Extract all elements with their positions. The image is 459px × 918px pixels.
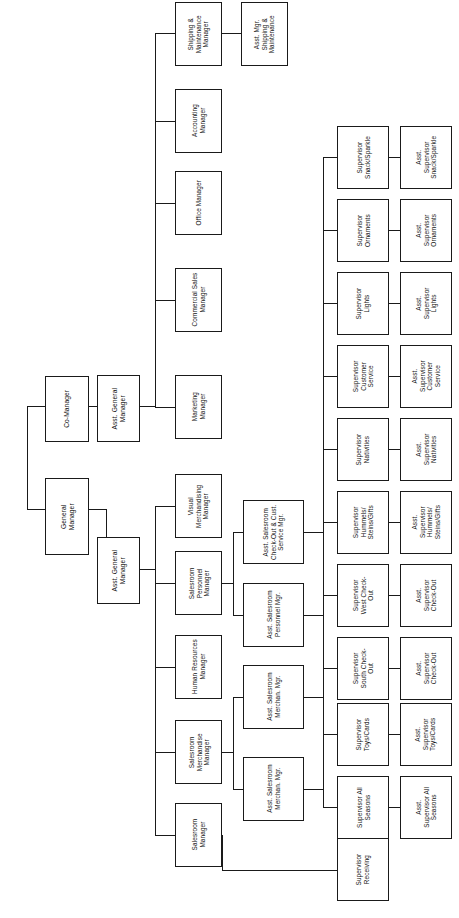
node-shipping-maintenance-manager-label: Shipping &MaintenanceManager <box>187 15 210 53</box>
node-asst-supervisor-snack-sparkle-label: Asst.SupervisorSnack/Sparkle <box>415 136 438 179</box>
node-salesroom-manager[interactable]: SalesroomManager <box>175 803 222 867</box>
branch-asst-checkout-cust <box>233 532 243 533</box>
node-supervisor-all-seasons-label: Supervisor AllSeasons <box>355 787 370 828</box>
node-co-manager-label: Co-Manager <box>63 390 71 428</box>
node-supervisor-toys-cards-label: SupervisorToys/Cards <box>355 718 370 751</box>
node-office-manager-label: Office Manager <box>195 180 203 225</box>
branch-commercial-sales <box>155 300 175 301</box>
node-asst-general-manager-upper[interactable]: Asst. GeneralManager <box>97 375 140 442</box>
node-asst-supervisor-hummels-gifts-label: Asst.SupervisorHummels/Steins/Gifts <box>411 505 441 539</box>
link-sup-asst-snack-sparkle <box>389 157 400 158</box>
node-asst-supervisor-lights-label: Asst.SupervisorLights <box>415 288 438 320</box>
node-asst-supervisor-all-seasons-label: Asst.Supervisor AllSeasons <box>415 787 438 828</box>
trunk-agm-upper <box>155 33 156 408</box>
node-salesroom-personnel-manager-label: SalesroomPersonnelManager <box>187 567 210 599</box>
node-asst-general-manager-lower-label: Asst. GeneralManager <box>111 550 127 592</box>
connector-asst-checkout-out <box>304 532 324 533</box>
node-accounting-manager[interactable]: AccountingManager <box>175 89 222 153</box>
branch-sup-ornaments <box>323 230 337 231</box>
org-chart-canvas: GeneralManager Co-Manager Asst. GeneralM… <box>0 0 459 918</box>
node-asst-supervisor-snack-sparkle[interactable]: Asst.SupervisorSnack/Sparkle <box>400 126 452 189</box>
node-supervisor-receiving-label: SupervisorReceiving <box>355 854 370 886</box>
node-human-resources-manager-label: Human ResourcesManager <box>191 640 206 695</box>
connector-salesroom-mgr-drop <box>222 835 223 871</box>
node-asst-supervisor-toys-cards[interactable]: Asst.SupervisorToys/Cards <box>400 703 452 766</box>
link-sup-asst-toys-cards <box>389 734 400 735</box>
node-salesroom-merchandise-manager-label: SalesroomMerchandiseManager <box>187 733 210 771</box>
connector-comanager-left-stub <box>27 406 45 407</box>
node-asst-supervisor-nativities-label: Asst.SupervisorNativities <box>415 434 438 466</box>
node-salesroom-manager-label: SalesroomManager <box>191 819 206 851</box>
node-asst-supervisor-west-check-out[interactable]: Asst.SupervisorCheck-Out <box>400 564 452 627</box>
node-supervisor-south-check-out-label: SupervisorSouth Check-Out <box>352 648 375 688</box>
node-supervisor-snack-sparkle[interactable]: SupervisorSnack/Sparkle <box>337 126 389 189</box>
node-salesroom-personnel-manager[interactable]: SalesroomPersonnelManager <box>175 551 222 615</box>
node-asst-salesroom-merchan-mgr-1[interactable]: Asst. SalesroomMerchan. Mgr. <box>243 665 304 729</box>
node-asst-supervisor-nativities[interactable]: Asst.SupervisorNativities <box>400 418 452 481</box>
node-supervisor-customer-service-label: SupervisorCustomerService <box>352 361 375 393</box>
node-supervisor-hummels-gifts[interactable]: SupervisorHummels/Steins/Gifts <box>337 491 389 554</box>
link-sup-asst-nativities <box>389 449 400 450</box>
branch-visual-merch <box>155 506 175 507</box>
link-sup-asst-lights <box>389 303 400 304</box>
node-asst-supervisor-lights[interactable]: Asst.SupervisorLights <box>400 272 452 335</box>
node-accounting-manager-label: AccountingManager <box>191 105 206 138</box>
connector-salesroom-mgr-receiving <box>222 870 337 871</box>
node-human-resources-manager[interactable]: Human ResourcesManager <box>175 635 222 699</box>
node-supervisor-hummels-gifts-label: SupervisorHummels/Steins/Gifts <box>352 505 375 539</box>
node-supervisor-toys-cards[interactable]: SupervisorToys/Cards <box>337 703 389 766</box>
node-general-manager[interactable]: GeneralManager <box>45 478 89 555</box>
node-supervisor-lights[interactable]: SupervisorLights <box>337 272 389 335</box>
node-supervisor-nativities-label: SupervisorNativities <box>355 434 370 466</box>
node-supervisor-nativities[interactable]: SupervisorNativities <box>337 418 389 481</box>
node-asst-supervisor-all-seasons[interactable]: Asst.Supervisor AllSeasons <box>400 776 452 839</box>
node-asst-salesroom-checkout-cust-service-mgr[interactable]: Asst. SalesroomCheck-Out & Cust.Service … <box>243 500 304 564</box>
node-office-manager[interactable]: Office Manager <box>175 171 222 235</box>
branch-sup-customer-service <box>323 376 337 377</box>
node-supervisor-customer-service[interactable]: SupervisorCustomerService <box>337 345 389 408</box>
node-commercial-sales-manager[interactable]: Commercial SalesManager <box>175 268 222 332</box>
connector-asst-merchan1-out <box>304 697 324 698</box>
node-asst-supervisor-customer-service-label: Asst.SupervisorCustomerService <box>411 361 441 393</box>
node-supervisor-south-check-out[interactable]: SupervisorSouth Check-Out <box>337 637 389 700</box>
trunk-agm-lower <box>155 506 156 836</box>
node-asst-mgr-shipping-maintenance-label: Asst. Mgr.Shipping &Maintenance <box>253 15 276 53</box>
node-supervisor-receiving[interactable]: SupervisorReceiving <box>337 838 389 901</box>
connector-asst-merchan2-out <box>304 789 324 790</box>
branch-asst-merchan-2 <box>233 789 243 790</box>
node-asst-supervisor-customer-service[interactable]: Asst.SupervisorCustomerService <box>400 345 452 408</box>
link-sup-asst-ornaments <box>389 230 400 231</box>
node-supervisor-ornaments[interactable]: SupervisorOrnaments <box>337 199 389 262</box>
node-asst-supervisor-ornaments[interactable]: Asst.SupervisorOrnaments <box>400 199 452 262</box>
node-asst-salesroom-merchan-mgr-2-label: Asst. SalesroomMerchan. Mgr. <box>266 765 281 813</box>
node-asst-salesroom-merchan-mgr-1-label: Asst. SalesroomMerchan. Mgr. <box>266 673 281 721</box>
bracket-personnel <box>233 532 234 616</box>
node-asst-general-manager-lower[interactable]: Asst. GeneralManager <box>97 537 140 604</box>
node-asst-salesroom-merchan-mgr-2[interactable]: Asst. SalesroomMerchan. Mgr. <box>243 757 304 821</box>
node-asst-salesroom-personnel-mgr[interactable]: Asst. SalesroomPersonnel Mgr. <box>243 583 304 647</box>
node-marketing-manager[interactable]: MarketingManager <box>175 375 222 439</box>
node-asst-supervisor-west-check-out-label: Asst.SupervisorCheck-Out <box>415 580 438 612</box>
branch-shipping-maintenance <box>155 33 175 34</box>
link-sup-asst-all-seasons <box>389 807 400 808</box>
connector-agm-lower-out <box>140 569 156 570</box>
node-shipping-maintenance-manager[interactable]: Shipping &MaintenanceManager <box>175 2 222 66</box>
node-salesroom-merchandise-manager[interactable]: SalesroomMerchandiseManager <box>175 720 222 784</box>
branch-office-manager <box>155 203 175 204</box>
node-visual-merchandising-manager[interactable]: VisualMerchandisingManager <box>175 474 222 538</box>
node-asst-mgr-shipping-maintenance[interactable]: Asst. Mgr.Shipping &Maintenance <box>241 2 288 66</box>
node-visual-merchandising-manager-label: VisualMerchandisingManager <box>187 484 210 527</box>
branch-accounting <box>155 121 175 122</box>
link-sup-asst-customer-service <box>389 376 400 377</box>
branch-sup-nativities <box>323 449 337 450</box>
node-asst-supervisor-south-check-out[interactable]: Asst.SupervisorCheck-Out <box>400 637 452 700</box>
node-asst-general-manager-upper-label: Asst. GeneralManager <box>111 388 127 430</box>
node-asst-salesroom-checkout-cust-service-mgr-label: Asst. SalesroomCheck-Out & Cust.Service … <box>262 504 285 559</box>
node-supervisor-all-seasons[interactable]: Supervisor AllSeasons <box>337 776 389 839</box>
node-asst-supervisor-hummels-gifts[interactable]: Asst.SupervisorHummels/Steins/Gifts <box>400 491 452 554</box>
node-co-manager[interactable]: Co-Manager <box>45 376 89 442</box>
connector-agm-upper-out <box>140 406 156 407</box>
branch-sup-south-checkout <box>323 668 337 669</box>
node-supervisor-west-check-out[interactable]: SupervisorWest Check-Out <box>337 564 389 627</box>
branch-sup-hummels <box>323 522 337 523</box>
